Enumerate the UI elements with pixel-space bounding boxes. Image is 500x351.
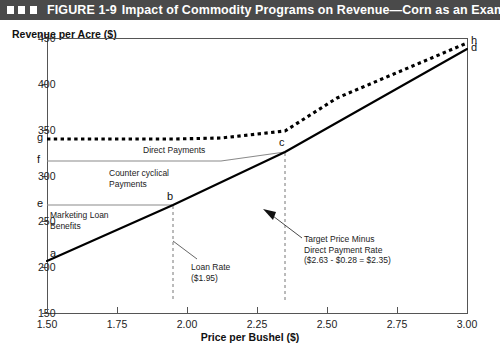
point-label-g: g <box>37 131 43 143</box>
annotation-direct-payments: Direct Payments <box>143 145 205 156</box>
x-tick-label: 3.00 <box>447 318 487 330</box>
square-mark <box>7 6 14 14</box>
x-tick-label: 2.00 <box>167 318 207 330</box>
annotation-counter-cyclical-line2: Payments <box>109 179 169 190</box>
x-tick-label: 2.25 <box>237 318 277 330</box>
figure-title: FIGURE 1-9Impact of Commodity Programs o… <box>44 3 500 17</box>
loan-rate-leader-line <box>173 241 197 259</box>
annotation-target-price: Target Price Minus Direct Payment Rate (… <box>304 234 391 266</box>
annotation-counter-cyclical-line1: Counter cyclical <box>109 168 169 179</box>
series-market-revenue <box>47 49 467 261</box>
point-label-e: e <box>37 197 43 209</box>
annotation-marketing-loan-line2: Benefits <box>50 221 109 232</box>
annotation-loan-rate-line1: Loan Rate <box>191 262 230 273</box>
target-price-arrowhead <box>263 209 276 220</box>
square-mark <box>30 6 37 14</box>
annotation-marketing-loan-line1: Marketing Loan <box>50 210 109 221</box>
series-total-revenue-with-programs <box>47 43 467 139</box>
figure-title-text: Impact of Commodity Programs on Revenue—… <box>122 3 500 17</box>
square-marks-icon <box>0 0 44 20</box>
x-axis-title: Price per Bushel ($) <box>0 331 500 343</box>
annotation-target-price-line1: Target Price Minus <box>304 234 391 245</box>
annotation-counter-cyclical: Counter cyclical Payments <box>109 168 169 189</box>
point-label-c: c <box>279 136 285 148</box>
annotation-marketing-loan: Marketing Loan Benefits <box>50 210 109 231</box>
annotation-target-price-line3: ($2.63 - $0.28 = $2.35) <box>304 255 391 266</box>
x-tick-label: 2.75 <box>377 318 417 330</box>
chart-figure: Revenue per Acre ($) Price per Bushel ($… <box>0 20 500 351</box>
annotation-target-price-line2: Direct Payment Rate <box>304 245 391 256</box>
x-tick-label: 1.50 <box>27 318 67 330</box>
annotation-loan-rate: Loan Rate ($1.95) <box>191 262 230 283</box>
point-label-h: h <box>471 34 477 46</box>
plot-area: 450 400 350 300 250 200 150 1.50 1.75 2.… <box>47 38 468 313</box>
x-axis-line <box>47 313 468 314</box>
figure-header-bar: FIGURE 1-9Impact of Commodity Programs o… <box>0 0 500 20</box>
point-label-b: b <box>167 190 173 202</box>
point-label-a: a <box>50 247 56 259</box>
point-label-f: f <box>37 153 40 165</box>
annotation-loan-rate-line2: ($1.95) <box>191 273 230 284</box>
x-tick-label: 2.50 <box>307 318 347 330</box>
square-mark <box>18 6 25 14</box>
figure-number: FIGURE 1-9 <box>47 3 117 17</box>
x-tick-label: 1.75 <box>97 318 137 330</box>
